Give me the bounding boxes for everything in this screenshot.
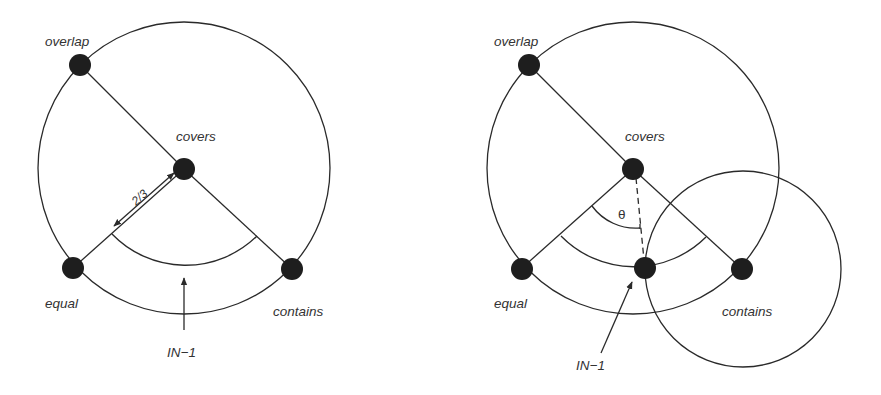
left-diagram: 2/3 overlap covers equal contains IN−1 bbox=[38, 22, 330, 360]
label-covers: covers bbox=[176, 129, 216, 144]
edge-covers-contains bbox=[184, 169, 292, 269]
node-contains bbox=[281, 258, 303, 280]
right-diagram: θ overlap covers equal contains IN−1 bbox=[487, 22, 841, 373]
edge-overlap-covers bbox=[529, 65, 633, 169]
edge-covers-contains bbox=[633, 169, 742, 269]
label-in1: IN−1 bbox=[576, 358, 605, 373]
node-overlap bbox=[69, 54, 91, 76]
node-contains bbox=[731, 258, 753, 280]
label-overlap: overlap bbox=[45, 34, 90, 49]
node-covers bbox=[173, 158, 195, 180]
edge-overlap-covers bbox=[80, 65, 184, 169]
label-in1: IN−1 bbox=[167, 345, 196, 360]
node-equal bbox=[62, 257, 84, 279]
in1-arc bbox=[561, 236, 706, 267]
theta-label: θ bbox=[618, 207, 626, 222]
ratio-label: 2/3 bbox=[128, 186, 151, 208]
in1-arc bbox=[112, 234, 257, 265]
theta-arc bbox=[592, 206, 640, 228]
edge-covers-equal bbox=[522, 169, 633, 268]
diagram-canvas: 2/3 overlap covers equal contains IN−1 θ bbox=[0, 0, 881, 395]
node-covers bbox=[622, 158, 644, 180]
label-equal: equal bbox=[494, 296, 528, 311]
label-contains: contains bbox=[273, 304, 324, 319]
label-contains: contains bbox=[722, 304, 773, 319]
label-equal: equal bbox=[45, 296, 79, 311]
node-in1 bbox=[634, 257, 656, 279]
node-overlap bbox=[518, 54, 540, 76]
in1-pointer-arrow bbox=[601, 282, 632, 353]
label-overlap: overlap bbox=[494, 34, 539, 49]
label-covers: covers bbox=[625, 129, 665, 144]
node-equal bbox=[511, 258, 533, 280]
edge-covers-equal bbox=[73, 169, 184, 268]
edge-covers-in1-dashed bbox=[636, 178, 644, 260]
